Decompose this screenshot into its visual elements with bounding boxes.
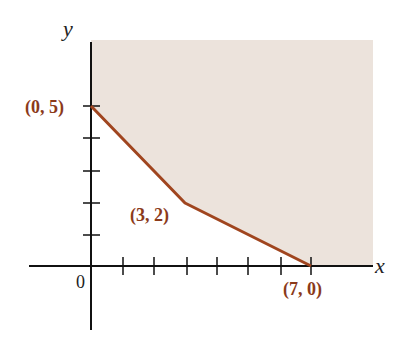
point-label-0-5: (0, 5) — [25, 97, 64, 118]
chart-svg: y x 0 (0, 5) (3, 2) (7, 0) — [0, 0, 404, 349]
feasible-region — [91, 40, 373, 266]
y-axis-label: y — [61, 16, 73, 41]
origin-label: 0 — [76, 272, 85, 292]
x-axis-label: x — [374, 253, 385, 278]
point-label-3-2: (3, 2) — [130, 205, 169, 226]
chart: y x 0 (0, 5) (3, 2) (7, 0) — [0, 0, 404, 349]
point-label-7-0: (7, 0) — [283, 279, 322, 300]
